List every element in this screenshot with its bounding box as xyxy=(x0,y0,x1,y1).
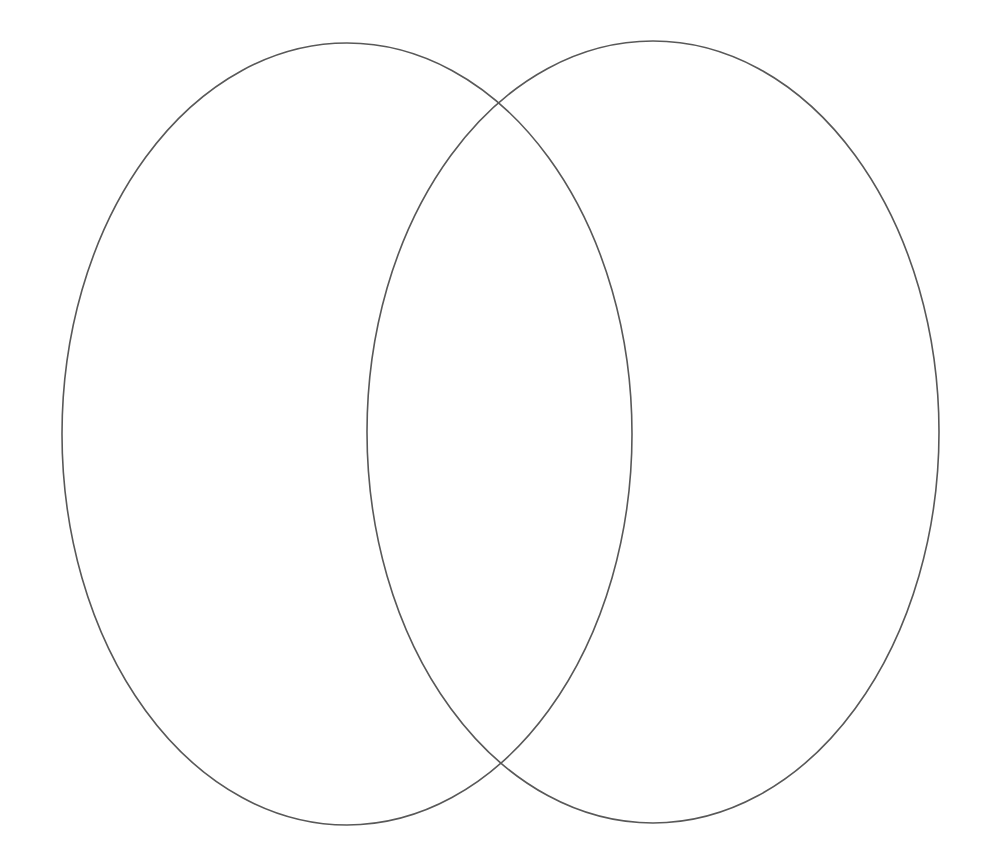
background-rect xyxy=(0,0,999,861)
venn-diagram-canvas xyxy=(0,0,999,861)
venn-diagram-svg xyxy=(0,0,999,861)
